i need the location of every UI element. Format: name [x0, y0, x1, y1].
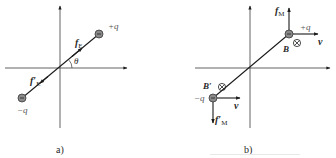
panel-a-force-label: fE [75, 38, 83, 50]
panel-a-plus-charge-icon [95, 30, 103, 38]
panel-b-force-prime-subscript: M [221, 119, 227, 127]
panel-b-field-label: B [283, 45, 289, 54]
panel-a-minus-charge-icon [18, 94, 26, 102]
panel-a-force-subscript: E [78, 42, 82, 50]
dipole-force-diagram: +q −q fE f′E θ a) fM +q v B B′ −q v f′M … [0, 0, 336, 158]
panel-b-dipole-rod [213, 34, 289, 98]
panel-a-angle-label: θ [74, 57, 78, 66]
panel-b-field-prime-into-page-icon [218, 83, 225, 90]
panel-b-velocity-bottom-label: v [234, 101, 238, 111]
panel-a-angle-arc [69, 60, 72, 68]
panel-b-minus-charge-icon [209, 94, 217, 102]
panel-a-dipole-rod [22, 34, 99, 98]
scan-bleed-through [210, 154, 300, 155]
panel-b-minus-charge-label: −q [194, 94, 205, 103]
diagram-graphics [0, 0, 336, 158]
panel-b-field-into-page-icon [293, 39, 300, 46]
panel-b-velocity-top-label: v [318, 37, 322, 47]
panel-b-plus-charge-icon [285, 30, 293, 38]
panel-a-caption: a) [56, 145, 64, 155]
panel-b-force-subscript: M [278, 10, 284, 18]
panel-b-plus-charge-label: +q [300, 23, 311, 32]
panel-a-force-prime-label: f′E [30, 76, 40, 88]
panel-a-plus-charge-label: +q [108, 22, 119, 31]
panel-a-force-prime-arrow [40, 77, 48, 84]
panel-b-force-label: fM [275, 6, 285, 18]
panel-a-force-prime-subscript: E [36, 80, 40, 88]
panel-b-force-prime-label: f′M [215, 115, 227, 127]
panel-a-minus-charge-label: −q [17, 106, 28, 115]
panel-b-field-prime-label: B′ [203, 82, 212, 91]
